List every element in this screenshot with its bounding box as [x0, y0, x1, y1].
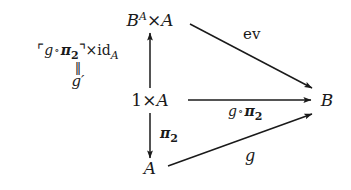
label-pi2-projection: π2 — [160, 126, 178, 144]
label-evaluation-map: ev — [243, 27, 260, 43]
node-terminal-product-object: 1×A — [131, 92, 168, 109]
node-middle-operand: A — [156, 90, 168, 110]
label-transpose-expression: ⌜g∘π2⌝×idA — [37, 42, 118, 62]
times-operator-icon: × — [86, 42, 98, 58]
node-object-b: B — [321, 92, 334, 109]
label-g-prime: g′ — [37, 73, 118, 90]
node-middle-base: 1 — [131, 90, 142, 110]
label-pi: π — [160, 125, 170, 141]
label-g-compose-pi2: g∘π2 — [228, 104, 262, 122]
left-corner-quote-icon: ⌜ — [37, 41, 44, 59]
label-g: g — [228, 103, 237, 119]
label-exponential-transpose: ⌜g∘π2⌝×idA ‖ g′ — [37, 42, 118, 90]
label-pi-subscript: 2 — [255, 110, 263, 123]
label-pi-subscript: 2 — [170, 132, 178, 145]
node-object-a: A — [144, 160, 156, 177]
label-identity: id — [97, 42, 110, 58]
arrow-layer — [0, 0, 351, 190]
node-top-base: B — [127, 10, 140, 30]
node-exponential-product-object: BA×A — [127, 11, 174, 30]
label-pi: π — [61, 42, 71, 58]
node-top-operand: A — [161, 10, 173, 30]
label-identity-subscript: A — [111, 49, 119, 62]
label-g-morphism: g — [245, 148, 255, 165]
times-operator-icon: × — [142, 90, 156, 110]
label-pi: π — [244, 103, 254, 119]
label-g: g — [44, 42, 53, 58]
times-operator-icon: × — [147, 10, 161, 30]
commutative-diagram: BA×A 1×A A B ⌜g∘π2⌝×idA ‖ g′ ev g∘π2 π2 … — [0, 0, 351, 190]
